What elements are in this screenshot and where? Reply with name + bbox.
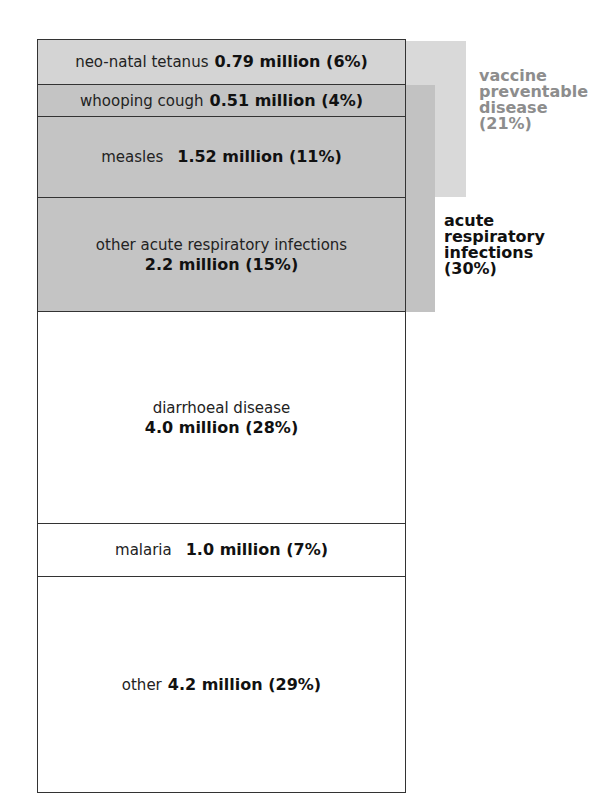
segment-label: whooping cough xyxy=(80,92,204,110)
bar-segment-whooping-cough: whooping cough0.51 million (4%) xyxy=(38,85,405,117)
segment-value: 0.79 million (6%) xyxy=(214,52,367,71)
bar-segment-malaria: malaria1.0 million (7%) xyxy=(38,524,405,577)
bar-segment-neonatal-tetanus: neo-natal tetanus0.79 million (6%) xyxy=(38,40,405,85)
segment-value: 4.0 million (28%) xyxy=(145,418,298,437)
stacked-bar: neo-natal tetanus0.79 million (6%) whoop… xyxy=(37,39,406,793)
label-line: (21%) xyxy=(479,116,588,132)
acute-respiratory-label: acute respiratory infections (30%) xyxy=(444,213,545,277)
bar-segment-other-ari: other acute respiratory infections 2.2 m… xyxy=(38,198,405,312)
vaccine-preventable-label: vaccine preventable disease (21%) xyxy=(479,68,588,132)
bar-segment-measles: measles1.52 million (11%) xyxy=(38,117,405,198)
segment-label: other acute respiratory infections xyxy=(96,236,347,255)
bar-segment-diarrhoeal-disease: diarrhoeal disease 4.0 million (28%) xyxy=(38,312,405,524)
bar-segment-other: other4.2 million (29%) xyxy=(38,577,405,792)
segment-value: 1.0 million (7%) xyxy=(186,540,328,559)
segment-value: 4.2 million (29%) xyxy=(168,675,321,694)
label-line: (30%) xyxy=(444,261,545,277)
acute-respiratory-bracket xyxy=(406,85,435,312)
segment-value: 2.2 million (15%) xyxy=(145,255,298,274)
segment-label: measles xyxy=(101,148,163,166)
segment-label: diarrhoeal disease xyxy=(153,399,291,418)
segment-label: neo-natal tetanus xyxy=(75,53,208,71)
segment-label: malaria xyxy=(115,541,172,559)
segment-value: 1.52 million (11%) xyxy=(177,147,342,166)
segment-value: 0.51 million (4%) xyxy=(210,91,363,110)
segment-label: other xyxy=(122,676,162,694)
